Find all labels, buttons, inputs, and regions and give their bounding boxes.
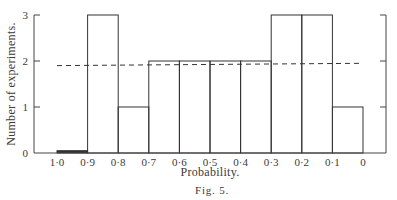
x-tick-label: 0 — [360, 156, 366, 168]
histogram-bar — [271, 15, 302, 153]
histogram-bar — [149, 61, 180, 153]
y-axis-title: Number of experiments. — [4, 22, 18, 146]
histogram-bar — [118, 107, 149, 153]
y-axis-ticks: 0123 — [23, 9, 387, 159]
histogram-bar — [88, 15, 119, 153]
y-tick-label: 3 — [23, 9, 29, 21]
x-tick-label: 0·8 — [111, 156, 126, 168]
figure-caption: Fig. 5. — [195, 184, 229, 196]
x-tick-label: 1·0 — [50, 156, 65, 168]
histogram-bar — [210, 61, 241, 153]
x-axis-title: Probability. — [180, 165, 239, 179]
histogram-bar — [241, 61, 272, 153]
histogram-bar — [302, 15, 333, 153]
y-tick-label: 0 — [23, 147, 29, 159]
x-tick-label: 0·2 — [294, 156, 309, 168]
x-tick-label: 0·1 — [325, 156, 340, 168]
histogram-chart: 0123 1·00·90·80·70·60·50·40·30·20·10 Num… — [0, 0, 397, 200]
bars-group — [57, 15, 363, 153]
histogram-bar — [332, 107, 363, 153]
x-tick-label: 0·7 — [141, 156, 156, 168]
histogram-bar — [179, 61, 210, 153]
y-tick-label: 2 — [23, 55, 29, 67]
x-tick-label: 0·9 — [80, 156, 95, 168]
x-tick-label: 0·3 — [264, 156, 279, 168]
y-tick-label: 1 — [23, 101, 29, 113]
